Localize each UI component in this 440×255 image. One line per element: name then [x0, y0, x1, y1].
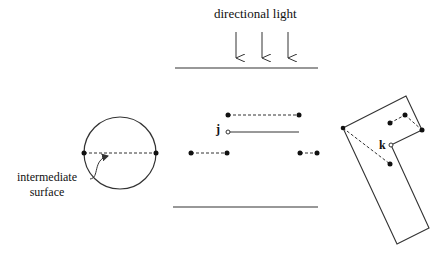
diagram-canvas: directional light intermediate surface j…: [0, 0, 440, 255]
light-arrows: [236, 32, 288, 58]
intermediate-label-line2: surface: [2, 185, 92, 200]
slab-object: [173, 68, 320, 207]
intermediate-label-line1: intermediate: [2, 170, 92, 185]
point-k-label: k: [379, 138, 386, 153]
l-shape-object: [341, 96, 429, 244]
directional-light-label: directional light: [214, 6, 297, 22]
point-j-label: j: [216, 122, 220, 137]
sphere-object: [82, 117, 159, 189]
intermediate-surface-label: intermediate surface: [2, 170, 92, 200]
diagram-svg: [0, 0, 440, 255]
